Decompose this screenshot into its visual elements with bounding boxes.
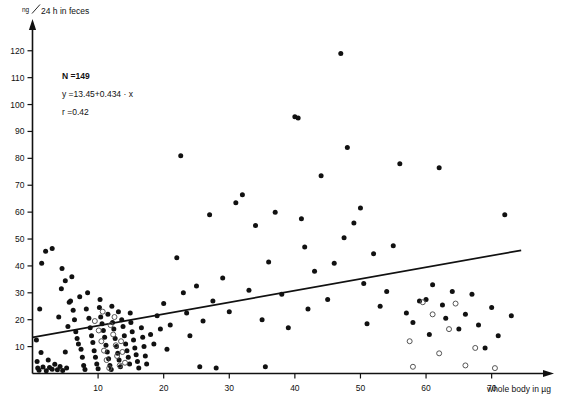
data-point-filled: [64, 366, 69, 371]
data-point-filled: [103, 343, 108, 348]
data-point-filled: [463, 312, 468, 317]
annotation-block: N =149 y =13.45+0.434 · x r =0.42: [62, 71, 134, 117]
data-point-open: [122, 360, 127, 365]
data-point-open: [463, 363, 468, 368]
data-point-filled: [164, 347, 169, 352]
data-point-open: [437, 351, 442, 356]
data-point-filled: [437, 165, 442, 170]
data-point-open: [92, 319, 97, 324]
data-point-filled: [75, 336, 80, 341]
data-point-filled: [85, 290, 90, 295]
x-axis-title: whole body in µg: [486, 384, 551, 394]
data-point-filled: [233, 200, 238, 205]
data-point-filled: [227, 309, 232, 314]
data-point-filled: [144, 362, 149, 367]
data-point-filled: [139, 325, 144, 330]
data-point-filled: [148, 332, 153, 337]
data-point-filled: [128, 320, 133, 325]
data-point-filled: [52, 362, 57, 367]
data-point-filled: [63, 349, 68, 354]
data-point-filled: [302, 245, 307, 250]
data-point-filled: [50, 367, 55, 372]
data-point-filled: [43, 249, 48, 254]
data-point-filled: [397, 161, 402, 166]
data-point-filled: [253, 223, 258, 228]
data-point-filled: [65, 324, 70, 329]
data-point-open: [492, 366, 497, 371]
y-tick-label-120: 120: [10, 46, 24, 56]
data-point-filled: [50, 246, 55, 251]
regression-line-segment: [33, 250, 522, 337]
data-point-filled: [39, 350, 44, 355]
data-point-filled: [130, 329, 135, 334]
data-point-filled: [184, 310, 189, 315]
y-tick-label-80: 80: [15, 153, 25, 163]
data-point-open: [447, 327, 452, 332]
data-point-filled: [128, 310, 133, 315]
data-point-filled: [121, 324, 126, 329]
data-point-filled: [46, 358, 51, 363]
data-point-open: [100, 309, 105, 314]
y-axis-title-denominator: 24 h in feces: [41, 6, 89, 16]
data-point-filled: [509, 313, 514, 318]
data-point-filled: [56, 315, 61, 320]
data-point-filled: [98, 297, 103, 302]
data-point-filled: [37, 368, 42, 373]
y-tick-label-50: 50: [15, 234, 25, 244]
data-point-filled: [79, 347, 84, 352]
data-point-filled: [100, 321, 105, 326]
data-point-filled: [371, 251, 376, 256]
series-open: [92, 300, 497, 371]
data-point-filled: [358, 206, 363, 211]
data-point-filled: [391, 243, 396, 248]
y-tick-label-110: 110: [11, 73, 25, 83]
data-point-filled: [88, 325, 93, 330]
data-point-filled: [312, 269, 317, 274]
data-point-open: [111, 332, 116, 337]
data-point-filled: [96, 366, 101, 371]
y-tick-label-30: 30: [15, 288, 25, 298]
data-point-filled: [240, 192, 245, 197]
data-point-filled: [338, 51, 343, 56]
x-tick-label-10: 10: [93, 383, 103, 393]
data-point-filled: [72, 317, 77, 322]
data-point-filled: [210, 298, 215, 303]
data-point-filled: [384, 289, 389, 294]
annotation-equation: y =13.45+0.434 · x: [62, 89, 134, 99]
data-point-filled: [286, 325, 291, 330]
data-point-filled: [158, 327, 163, 332]
data-point-filled: [40, 365, 45, 370]
data-point-filled: [82, 367, 87, 372]
data-point-filled: [430, 282, 435, 287]
data-point-filled: [351, 220, 356, 225]
data-point-filled: [35, 359, 40, 364]
data-point-filled: [76, 341, 81, 346]
data-point-open: [430, 312, 435, 317]
data-point-filled: [37, 306, 42, 311]
data-point-open: [453, 301, 458, 306]
y-tick-label-10: 10: [15, 342, 25, 352]
x-tick-label-50: 50: [356, 383, 366, 393]
data-point-filled: [71, 308, 76, 313]
data-point-filled: [299, 216, 304, 221]
data-point-open: [112, 315, 117, 320]
data-point-filled: [155, 313, 160, 318]
data-point-filled: [440, 302, 445, 307]
y-axis-title-numerator: ng: [22, 6, 30, 14]
data-point-filled: [273, 210, 278, 215]
data-point-filled: [443, 316, 448, 321]
data-point-filled: [207, 212, 212, 217]
data-point-filled: [201, 319, 206, 324]
data-point-filled: [143, 354, 148, 359]
data-point-filled: [142, 344, 147, 349]
data-point-filled: [80, 355, 85, 360]
data-point-filled: [296, 115, 301, 120]
data-point-open: [120, 349, 125, 354]
data-point-open: [99, 339, 104, 344]
data-point-filled: [325, 297, 330, 302]
data-point-open: [96, 328, 101, 333]
y-tick-label-60: 60: [15, 207, 25, 217]
data-point-filled: [136, 366, 141, 371]
data-point-filled: [246, 288, 251, 293]
data-point-filled: [345, 145, 350, 150]
